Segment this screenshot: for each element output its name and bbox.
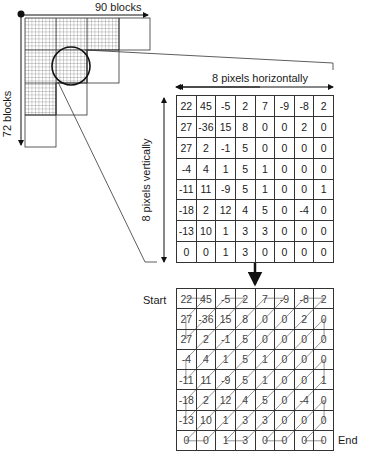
grid-cell: 45: [197, 289, 217, 309]
grid-cell: 0: [314, 242, 334, 263]
grid-cell: -9: [275, 96, 295, 117]
grid-cell: -13: [177, 411, 197, 431]
grid-cell: 0: [177, 242, 197, 263]
grid-cell: -11: [177, 370, 197, 390]
grid-cell: 7: [256, 96, 276, 117]
grid-cell: 5: [236, 159, 256, 180]
grid-cell: 2: [314, 96, 334, 117]
grid-cell: 0: [295, 431, 315, 451]
grid-cell: 5: [256, 390, 276, 410]
grid-cell: -8: [295, 96, 315, 117]
grid-cell: 0: [295, 411, 315, 431]
grid-cell: 15: [216, 309, 236, 329]
grid-cell: 2: [314, 289, 334, 309]
grid-cell: 0: [275, 117, 295, 138]
grid-cell: 12: [216, 200, 236, 221]
grid-cell: 5: [236, 350, 256, 370]
grid-cell: -9: [216, 180, 236, 201]
grid-cell: 2: [295, 117, 315, 138]
grid-cell: 0: [314, 221, 334, 242]
grid-cell: 0: [197, 431, 217, 451]
grid-cell: 2: [197, 138, 217, 159]
grid-cell: 0: [275, 221, 295, 242]
grid-cell: 2: [236, 289, 256, 309]
zigzag-start-label: Start: [143, 294, 166, 306]
grid-cell: 0: [177, 431, 197, 451]
grid-cell: 0: [295, 242, 315, 263]
blocks-vertical-label: 72 blocks: [1, 91, 13, 137]
grid-cell: -1: [216, 330, 236, 350]
grid-cell: 27: [177, 330, 197, 350]
grid-cell: 4: [197, 159, 217, 180]
grid-cell: 4: [236, 390, 256, 410]
grid-cell: 22: [177, 289, 197, 309]
grid-cell: 0: [275, 390, 295, 410]
grid-cell: 0: [314, 200, 334, 221]
grid-cell: 3: [256, 411, 276, 431]
grid-cell: 0: [256, 309, 276, 329]
grid-cell: 5: [236, 330, 256, 350]
grid-cell: 1: [216, 159, 236, 180]
grid-cell: 0: [275, 200, 295, 221]
grid-cell: 7: [256, 289, 276, 309]
grid-cell: 15: [216, 117, 236, 138]
grid-cell: 8: [236, 309, 256, 329]
grid-cell: 1: [216, 221, 236, 242]
grid-cell: 5: [236, 180, 256, 201]
grid-cell: 3: [236, 431, 256, 451]
zigzag-scan-grid: 2245-527-9-8227-361580020272-150000-4415…: [176, 288, 334, 451]
grid-cell: 1: [216, 350, 236, 370]
grid-cell: 8: [236, 117, 256, 138]
grid-cell: 1: [314, 180, 334, 201]
grid-cell: 0: [275, 330, 295, 350]
dct-coefficient-grid: 2245-527-9-8227-361580020272-150000-4415…: [176, 95, 334, 263]
grid-cell: 1: [216, 431, 236, 451]
grid-cell: 0: [295, 180, 315, 201]
origin-dot: [18, 11, 25, 18]
grid-cell: 5: [236, 138, 256, 159]
grid-cell: 10: [197, 411, 217, 431]
grid-cell: 3: [236, 411, 256, 431]
grid-cell: 2: [197, 200, 217, 221]
grid-cell: 2: [236, 96, 256, 117]
grid-cell: 45: [197, 96, 217, 117]
grid-cell: 0: [314, 159, 334, 180]
grid-cell: -4: [177, 159, 197, 180]
grid-cell: 0: [197, 242, 217, 263]
grid-cell: -13: [177, 221, 197, 242]
zigzag-end-label: End: [338, 434, 358, 446]
grid-cell: 0: [314, 350, 334, 370]
grid-cell: 12: [216, 390, 236, 410]
grid-cell: 0: [314, 309, 334, 329]
grid-cell: 5: [236, 370, 256, 390]
grid-cell: 0: [275, 242, 295, 263]
grid-cell: 10: [197, 221, 217, 242]
grid-cell: 0: [275, 431, 295, 451]
grid-cell: 0: [314, 117, 334, 138]
grid-cell: 0: [295, 221, 315, 242]
grid-cell: -9: [275, 289, 295, 309]
grid-cell: -18: [177, 390, 197, 410]
grid-cell: 1: [216, 411, 236, 431]
grid-cell: 0: [314, 431, 334, 451]
grid-cell: 0: [275, 370, 295, 390]
grid-cell: 0: [314, 330, 334, 350]
grid-cell: -36: [197, 117, 217, 138]
grid-cell: 0: [256, 242, 276, 263]
grid-cell: -11: [177, 180, 197, 201]
grid-cell: 22: [177, 96, 197, 117]
pixels-horizontal-label: 8 pixels horizontally: [212, 72, 308, 84]
blocks-horizontal-label: 90 blocks: [95, 1, 141, 13]
grid-cell: 4: [197, 350, 217, 370]
grid-cell: 0: [314, 390, 334, 410]
grid-cell: 0: [275, 350, 295, 370]
grid-cell: 3: [236, 221, 256, 242]
grid-cell: 11: [197, 180, 217, 201]
grid-cell: 1: [216, 242, 236, 263]
grid-cell: 0: [314, 411, 334, 431]
grid-cell: 1: [256, 180, 276, 201]
grid-cell: 2: [295, 309, 315, 329]
grid-cell: 0: [275, 138, 295, 159]
grid-cell: 0: [295, 330, 315, 350]
grid-cell: 1: [256, 370, 276, 390]
